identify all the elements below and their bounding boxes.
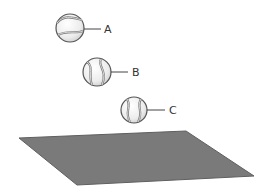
ground-plane <box>19 131 254 185</box>
label-a: A <box>104 23 112 36</box>
label-c: C <box>169 104 177 117</box>
ball-c: C <box>121 97 177 123</box>
ball-a: A <box>56 14 112 42</box>
label-b: B <box>132 66 140 79</box>
ball-b: B <box>83 58 140 86</box>
diagram-canvas: A B C <box>0 0 262 193</box>
